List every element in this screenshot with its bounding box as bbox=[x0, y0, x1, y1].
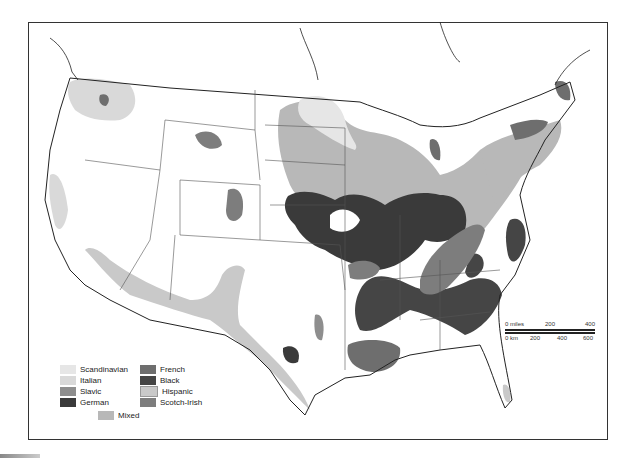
region-german-texas bbox=[283, 346, 299, 363]
scale-km-tick: 400 bbox=[557, 335, 567, 341]
legend-item-scandinavian: Scandinavian bbox=[60, 364, 128, 374]
legend-label: Slavic bbox=[80, 387, 101, 396]
legend-label: Scotch-Irish bbox=[160, 398, 202, 407]
legend-label: Italian bbox=[80, 376, 101, 385]
scale-miles-tick: 400 bbox=[585, 321, 595, 327]
legend-item-mixed: Mixed bbox=[98, 410, 139, 420]
region-french-louisiana bbox=[347, 340, 400, 372]
region-slavic-texas bbox=[314, 315, 323, 341]
legend-item-italian: Italian bbox=[60, 375, 101, 385]
scale-bar: 0 miles 200 400 0 km 200 400 600 bbox=[505, 318, 600, 348]
legend-label: German bbox=[80, 398, 109, 407]
scale-bar-miles-line bbox=[505, 329, 595, 331]
region-slavic-montana bbox=[195, 132, 222, 149]
region-italian-california bbox=[49, 174, 68, 229]
legend-item-german: German bbox=[60, 397, 109, 407]
legend-swatch bbox=[140, 386, 158, 397]
region-slavic-colorado bbox=[226, 189, 243, 221]
legend-swatch bbox=[98, 411, 114, 420]
legend-swatch bbox=[140, 365, 156, 374]
legend-swatch bbox=[60, 387, 76, 396]
legend-item-slavic: Slavic bbox=[60, 386, 101, 396]
legend-label: Scandinavian bbox=[80, 365, 128, 374]
region-slavic-michigan bbox=[430, 139, 441, 160]
legend-item-hispanic: Hispanic bbox=[140, 386, 193, 396]
legend-swatch bbox=[60, 376, 76, 385]
legend-label: Mixed bbox=[118, 411, 139, 420]
scale-bar-km-line bbox=[505, 332, 595, 334]
legend-item-scotch-irish: Scotch-Irish bbox=[140, 397, 202, 407]
scale-km-tick: 600 bbox=[583, 335, 593, 341]
scale-km-tick: 200 bbox=[530, 335, 540, 341]
scale-miles-label: 0 miles bbox=[505, 321, 524, 327]
scale-miles-tick: 200 bbox=[545, 321, 555, 327]
legend-swatch bbox=[140, 398, 156, 407]
legend-item-black: Black bbox=[140, 375, 180, 385]
legend-swatch bbox=[60, 398, 76, 407]
legend-swatch bbox=[60, 365, 76, 374]
legend-label: Hispanic bbox=[162, 387, 193, 396]
canada-coastlines bbox=[50, 22, 590, 85]
page-edge-shadow bbox=[0, 454, 40, 458]
region-black-nc bbox=[506, 219, 526, 262]
legend-swatch bbox=[140, 376, 156, 385]
legend-item-french: French bbox=[140, 364, 185, 374]
map-legend: Scandinavian Italian Slavic German Frenc… bbox=[60, 364, 250, 424]
legend-label: Black bbox=[160, 376, 180, 385]
legend-label: French bbox=[160, 365, 185, 374]
scale-km-label: 0 km bbox=[505, 335, 518, 341]
region-french-maine bbox=[555, 81, 570, 100]
